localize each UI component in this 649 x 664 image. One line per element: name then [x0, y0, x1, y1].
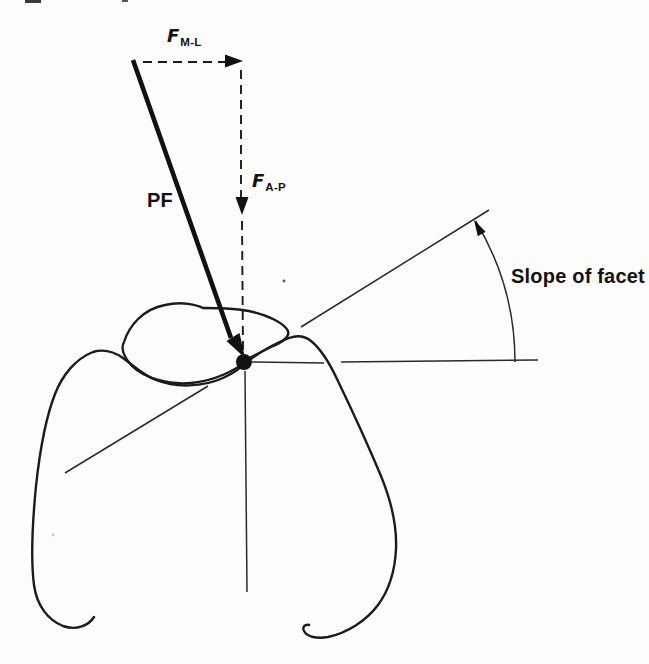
fml-arrowhead	[225, 55, 243, 68]
label-fap: FA-P	[252, 170, 286, 193]
fap-dashed-line-lower	[242, 221, 243, 350]
angle-arc	[476, 221, 516, 362]
label-pf: PF	[147, 189, 173, 211]
horizontal-reference-line-left	[252, 362, 324, 363]
vertical-reference-line	[245, 371, 247, 592]
facet-slope-line-upper	[301, 210, 489, 327]
label-fml-symbol: F	[167, 25, 180, 46]
label-fap-subscript: A-P	[265, 181, 286, 193]
label-fml: FM-L	[167, 25, 202, 48]
contact-point-dot	[236, 354, 252, 370]
facet-slope-line-lower	[65, 386, 208, 473]
angle-arc-arrowhead	[474, 220, 486, 236]
label-fap-symbol: F	[252, 170, 265, 191]
scan-artifact-top-left	[25, 0, 41, 3]
horizontal-reference-line-right	[341, 360, 538, 362]
scan-artifact-speck-faint	[52, 534, 55, 537]
label-slope-of-facet: Slope of facet	[511, 265, 645, 287]
force-diagram-svg: PF FM-L FA-P Slope of facet	[0, 0, 649, 664]
figure-canvas: PF FM-L FA-P Slope of facet	[0, 0, 649, 664]
femur-right-condyle-outline	[251, 336, 396, 637]
patella-outline	[122, 303, 288, 383]
fap-arrowhead	[236, 197, 249, 215]
label-fml-subscript: M-L	[180, 36, 201, 48]
femur-left-condyle-outline	[32, 351, 247, 628]
scan-artifact-top	[122, 0, 128, 2]
scan-artifact-speck	[283, 280, 286, 283]
